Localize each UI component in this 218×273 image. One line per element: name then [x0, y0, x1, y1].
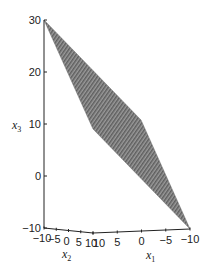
- x1-tick-label: 0: [138, 235, 144, 247]
- axis-label-subscript: 2: [67, 254, 71, 263]
- x1-tick-label: 10: [93, 237, 105, 249]
- x2-tick-label: 0: [63, 235, 69, 247]
- x3-tick-label: 0: [35, 170, 41, 182]
- axis-label-subscript: 1: [151, 255, 155, 264]
- surface-plot: −100102030−10−505101050−5−10 x3 x2 x1: [0, 0, 218, 273]
- x2-tick-label: −5: [48, 233, 61, 245]
- x3-tick-label: 20: [29, 66, 41, 78]
- x2-axis-label: x2: [61, 247, 71, 263]
- x3-tick-label: 10: [29, 118, 41, 130]
- x3-tick-label: 30: [29, 14, 41, 26]
- x1-axis-label: x1: [145, 248, 155, 264]
- x1-tick-label: 5: [114, 236, 120, 248]
- x2-tick-label: 5: [76, 236, 82, 248]
- axis-label-subscript: 3: [17, 125, 21, 134]
- surface-patch: [44, 20, 190, 229]
- x1-tick-label: −5: [159, 234, 172, 246]
- x1-tick-label: −10: [181, 233, 200, 245]
- x3-axis-label: x3: [11, 118, 21, 134]
